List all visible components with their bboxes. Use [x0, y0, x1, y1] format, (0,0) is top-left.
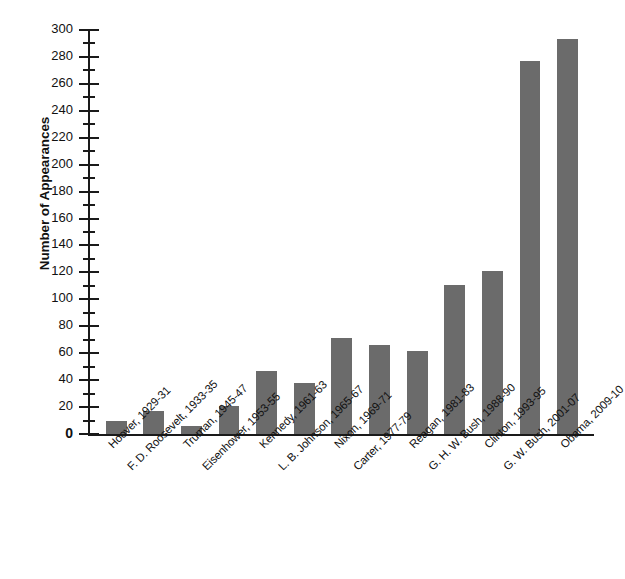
y-tick-label: 280	[33, 48, 73, 63]
y-tick-label: 60	[33, 344, 73, 359]
y-tick-label: 80	[33, 317, 73, 332]
x-axis-labels: Hoover, 1929-31F. D. Roosevelt, 1933-35T…	[88, 438, 608, 578]
y-tick-label: 220	[33, 129, 73, 144]
y-tick-label: 120	[33, 263, 73, 278]
bar	[520, 61, 541, 434]
y-tick-label: 140	[33, 236, 73, 251]
y-tick-label: 160	[33, 210, 73, 225]
y-tick-label: 20	[33, 398, 73, 413]
plot-area: 0204060801001201401601802002202402602803…	[88, 30, 594, 436]
y-tick-label: 0	[33, 425, 73, 441]
y-tick-label: 100	[33, 290, 73, 305]
y-tick-label: 240	[33, 102, 73, 117]
y-tick-label: 260	[33, 75, 73, 90]
bar	[557, 39, 578, 434]
y-tick-label: 40	[33, 371, 73, 386]
y-tick-label: 200	[33, 156, 73, 171]
bars-group	[90, 30, 594, 434]
y-tick-label: 300	[33, 21, 73, 36]
y-tick-label: 180	[33, 183, 73, 198]
